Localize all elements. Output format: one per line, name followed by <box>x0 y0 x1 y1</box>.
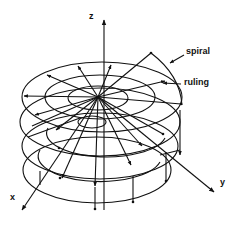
x-axis-label: x <box>10 193 15 202</box>
ruling-label: ruling <box>184 78 209 87</box>
spiral-leader <box>170 55 184 63</box>
helicoid-diagram: z spiral ruling x y <box>0 0 238 226</box>
helicoid-drawing <box>0 0 238 226</box>
y-axis-line <box>98 97 214 192</box>
spiral-label: spiral <box>186 47 210 56</box>
y-axis-label: y <box>220 178 225 187</box>
z-axis-label: z <box>89 12 94 21</box>
ruling-leader <box>163 83 181 84</box>
helicoid-surface <box>20 20 214 210</box>
